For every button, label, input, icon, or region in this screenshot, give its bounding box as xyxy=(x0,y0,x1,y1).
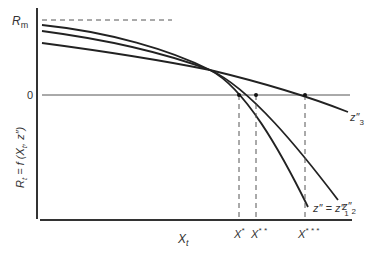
curve-z3 xyxy=(42,43,348,112)
zero-label: 0 xyxy=(27,89,33,101)
intersection-dot-z2 xyxy=(254,93,258,97)
rm-label: Rm xyxy=(12,14,28,30)
intersection-dot-z3 xyxy=(303,93,307,97)
diagram-canvas: Rm 0 Rt = f (Xt, z″) Xt X* X* * X* * * z… xyxy=(0,0,367,253)
curve-label-z1: z″ = z″1 xyxy=(312,202,349,218)
x-star-label: X* xyxy=(233,226,245,240)
curve-z2 xyxy=(42,31,338,200)
x-double-star-label: X* * xyxy=(250,226,268,240)
x-axis-label: Xt xyxy=(177,232,189,248)
x-triple-star-label: X* * * xyxy=(297,226,320,240)
svg-text:Rt = f (Xt, z″): Rt = f (Xt, z″) xyxy=(14,126,29,188)
intersection-dot-z1 xyxy=(237,93,241,97)
y-axis-label: Rt = f (Xt, z″) xyxy=(14,126,29,188)
curve-label-z3: z″3 xyxy=(349,111,364,127)
